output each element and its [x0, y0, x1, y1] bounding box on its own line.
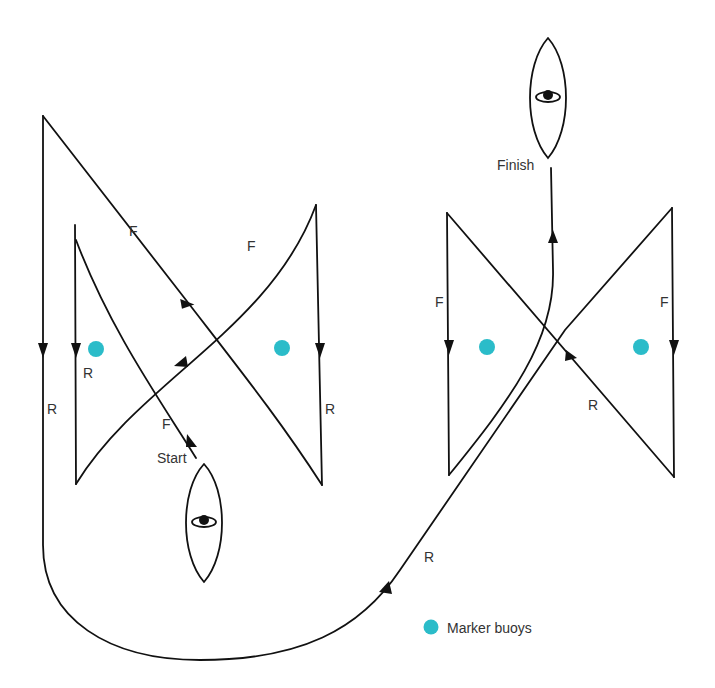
segment-label-10: R: [424, 549, 434, 565]
segment-label-5: F: [162, 416, 171, 432]
segment-label-8: F: [660, 294, 669, 310]
marker-buoy-2: [274, 340, 290, 356]
start-boat-icon: [186, 464, 222, 582]
segment-label-7: F: [435, 294, 444, 310]
segment-label-2: F: [247, 238, 256, 254]
legend: Marker buoys: [424, 620, 532, 637]
boat-course-diagram: Start Finish F F R R F R F F R R Marker …: [0, 0, 715, 688]
finish-label: Finish: [497, 157, 534, 173]
segment-label-1: F: [129, 223, 138, 239]
marker-buoy-1: [88, 341, 104, 357]
marker-buoy-3: [479, 339, 495, 355]
path-outer-left-u-turn: [43, 116, 672, 660]
segment-label-9: R: [588, 397, 598, 413]
arrowheads: [38, 230, 679, 594]
legend-label: Marker buoys: [447, 620, 532, 636]
segment-label-3: R: [83, 365, 93, 381]
marker-buoy-4: [633, 339, 649, 355]
finish-boat-icon: [530, 38, 566, 158]
start-label: Start: [157, 450, 187, 466]
path-to-finish: [449, 168, 553, 475]
segment-label-4: R: [47, 401, 57, 417]
legend-buoy-icon: [424, 620, 439, 635]
segment-label-6: R: [325, 401, 335, 417]
